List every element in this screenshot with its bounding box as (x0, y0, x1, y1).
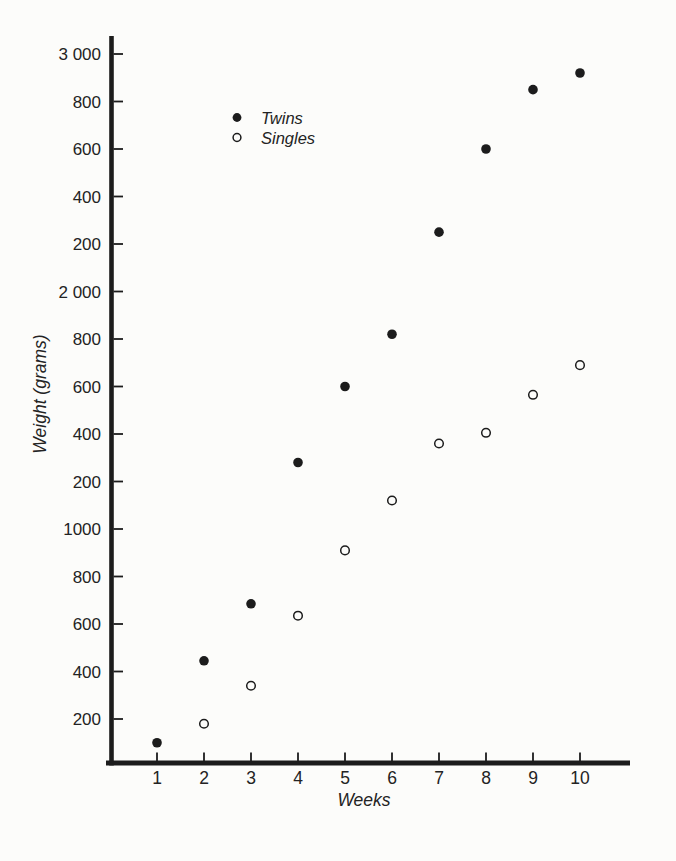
y-tick-label: 2 000 (58, 283, 101, 302)
point-twins-week-5 (340, 382, 350, 392)
scanned-page: 20040060080010002004006008002 0002004006… (0, 0, 676, 861)
point-singles-week-5 (341, 546, 350, 555)
y-tick-label: 600 (73, 615, 101, 634)
point-singles-week-10 (576, 361, 585, 370)
y-tick-label: 400 (73, 188, 101, 207)
point-twins-week-1 (152, 738, 162, 748)
y-tick-label: 200 (73, 473, 101, 492)
point-singles-week-6 (388, 496, 397, 505)
point-singles-week-4 (294, 611, 303, 620)
x-tick-label: 4 (293, 768, 303, 788)
legend-label-singles: Singles (261, 129, 315, 147)
weight-by-weeks-scatter-chart: 20040060080010002004006008002 0002004006… (0, 0, 676, 861)
x-tick-label: 3 (246, 768, 256, 788)
point-twins-week-7 (434, 227, 444, 237)
y-tick-label: 3 000 (58, 45, 101, 64)
point-twins-week-9 (528, 85, 538, 95)
x-tick-label: 10 (570, 768, 590, 788)
y-tick-label: 800 (73, 93, 101, 112)
point-twins-week-6 (387, 329, 397, 339)
x-tick-label: 9 (528, 768, 538, 788)
x-axis-title: Weeks (337, 790, 390, 810)
y-tick-label: 800 (73, 330, 101, 349)
x-tick-label: 1 (152, 768, 162, 788)
legend-label-twins: Twins (261, 109, 303, 127)
x-tick-label: 5 (340, 768, 350, 788)
point-twins-week-4 (293, 458, 303, 468)
x-tick-label: 6 (387, 768, 397, 788)
point-twins-week-10 (575, 68, 585, 78)
y-tick-label: 200 (73, 710, 101, 729)
y-tick-label: 600 (73, 378, 101, 397)
x-tick-label: 7 (434, 768, 444, 788)
point-singles-week-3 (247, 681, 256, 690)
point-singles-week-9 (529, 391, 538, 400)
y-tick-label: 400 (73, 663, 101, 682)
y-axis-title: Weight (grams) (30, 334, 50, 453)
point-singles-week-7 (435, 439, 444, 448)
legend-filled-dot-icon (233, 113, 242, 122)
y-tick-label: 200 (73, 235, 101, 254)
legend-open-circle-icon (233, 134, 241, 142)
y-tick-label: 800 (73, 568, 101, 587)
point-twins-week-3 (246, 599, 256, 609)
x-tick-label: 8 (481, 768, 491, 788)
point-twins-week-8 (481, 144, 491, 154)
y-tick-label: 400 (73, 425, 101, 444)
point-singles-week-2 (200, 719, 209, 728)
y-tick-label: 600 (73, 140, 101, 159)
y-tick-label: 1000 (63, 520, 101, 539)
point-twins-week-2 (199, 656, 209, 666)
x-tick-label: 2 (199, 768, 209, 788)
point-singles-week-8 (482, 429, 491, 438)
